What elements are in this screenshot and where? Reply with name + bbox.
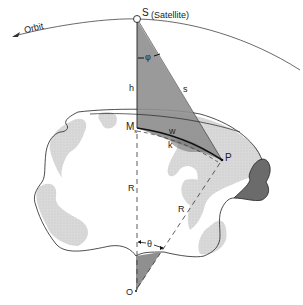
altitude-label: h [129, 84, 134, 93]
satellite-point-label: S [142, 8, 149, 18]
arc-w-label: w [169, 127, 176, 136]
orbit-arrow-icon [12, 32, 20, 37]
central-angle-label: θ [147, 240, 152, 249]
diagram-canvas [0, 0, 303, 305]
satellite-marker [134, 16, 141, 23]
slant-range-label: s [183, 85, 188, 94]
land-masses [36, 112, 262, 255]
arc-k-label: k [168, 141, 173, 150]
radius-slanted-label: R [178, 205, 185, 214]
radius-vertical-label: R [128, 184, 135, 193]
satellite-desc-label: (Satellite) [151, 11, 189, 20]
satellite-geometry-diagram: Orbit S (Satellite) h s φ Ms w k P R R θ… [0, 0, 303, 305]
ground-point-label: P [225, 153, 232, 163]
subsatellite-point-label: Ms [126, 122, 137, 134]
nadir-angle-label: φ [145, 53, 151, 62]
earth-center-label: O [126, 288, 133, 297]
